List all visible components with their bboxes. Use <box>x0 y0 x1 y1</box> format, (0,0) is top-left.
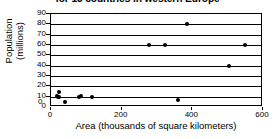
x-tick-mark-0 <box>50 107 51 110</box>
y-axis-tick-labels: 0102030405060708090 <box>22 13 46 106</box>
data-point <box>227 64 231 68</box>
scatter-chart: for 13 countries in western Europe Popul… <box>0 0 275 139</box>
data-point <box>63 100 67 104</box>
chart-title: for 13 countries in western Europe <box>0 0 275 4</box>
gridline-y-50 <box>51 55 261 56</box>
x-axis-tick-labels: 0200400600 <box>50 107 262 121</box>
plot-area <box>50 13 262 106</box>
gridline-y-60 <box>51 45 261 46</box>
gridline-y-70 <box>51 35 261 36</box>
data-point <box>57 95 61 99</box>
y-tick-label-70: 70 <box>22 30 46 38</box>
x-tick-label-0: 0 <box>48 111 52 119</box>
y-tick-label-90: 90 <box>22 9 46 17</box>
data-point <box>79 94 83 98</box>
x-tick-mark-400 <box>191 107 192 110</box>
x-axis-title: Area (thousands of square kilometers) <box>50 120 262 131</box>
data-point <box>90 95 94 99</box>
x-tick-label-200: 200 <box>114 111 127 119</box>
x-tick-label-600: 600 <box>255 111 268 119</box>
data-point <box>147 43 151 47</box>
gridline-y-10 <box>51 97 261 98</box>
x-tick-mark-600 <box>262 107 263 110</box>
data-point <box>243 43 247 47</box>
y-tick-label-30: 30 <box>22 71 46 79</box>
y-tick-label-20: 20 <box>22 81 46 89</box>
y-tick-label-80: 80 <box>22 19 46 27</box>
data-point <box>176 98 180 102</box>
y-tick-label-60: 60 <box>22 40 46 48</box>
x-tick-label-400: 400 <box>185 111 198 119</box>
gridline-y-20 <box>51 86 261 87</box>
x-tick-mark-200 <box>121 107 122 110</box>
data-point <box>185 22 189 26</box>
y-tick-label-50: 50 <box>22 50 46 58</box>
y-tick-label-40: 40 <box>22 61 46 69</box>
gridline-y-80 <box>51 24 261 25</box>
data-point <box>163 43 167 47</box>
y-axis-origin-label: 0 <box>38 98 42 106</box>
gridline-y-30 <box>51 76 261 77</box>
